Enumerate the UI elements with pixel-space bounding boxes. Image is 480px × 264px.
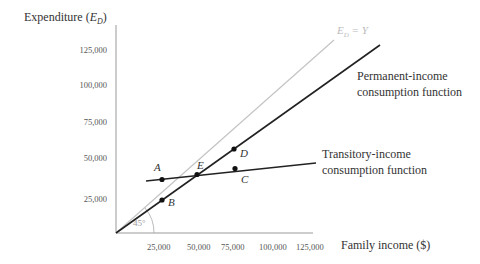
point-a bbox=[159, 177, 164, 182]
x-tick-50000: 50,000 bbox=[187, 242, 210, 252]
point-e-label: E bbox=[197, 159, 204, 171]
permanent-label-line2: consumption function bbox=[357, 84, 462, 100]
ed-equals-y-label: ED = Y bbox=[337, 24, 368, 39]
transitory-income-line bbox=[146, 163, 316, 181]
eq-main: E bbox=[337, 24, 344, 36]
point-c bbox=[232, 166, 237, 171]
point-c-label: C bbox=[241, 173, 248, 185]
diagram-canvas bbox=[0, 0, 480, 264]
point-d bbox=[231, 146, 236, 151]
transitory-label-line1: Transitory-income bbox=[322, 146, 427, 162]
ed-equals-y-line bbox=[116, 40, 334, 233]
permanent-label-line1: Permanent-income bbox=[357, 68, 462, 84]
x-tick-100000: 100,000 bbox=[259, 242, 287, 252]
eq-rest: = Y bbox=[349, 24, 368, 36]
y-tick-25000: 25,000 bbox=[47, 194, 107, 204]
point-e bbox=[194, 172, 199, 177]
y-axis-title-close: ) bbox=[103, 10, 107, 24]
point-b-label: B bbox=[168, 196, 175, 208]
point-b bbox=[159, 197, 164, 202]
x-tick-75000: 75,000 bbox=[221, 242, 244, 252]
y-axis-title-var: E bbox=[90, 10, 97, 24]
permanent-income-line bbox=[116, 45, 380, 233]
x-axis-title: Family income ($) bbox=[341, 238, 430, 253]
y-tick-125000: 125,000 bbox=[47, 45, 107, 55]
y-axis-title-text: Expenditure ( bbox=[24, 10, 90, 24]
transitory-income-label: Transitory-income consumption function bbox=[322, 146, 427, 178]
permanent-income-label: Permanent-income consumption function bbox=[357, 68, 462, 100]
transitory-label-line2: consumption function bbox=[322, 162, 427, 178]
x-tick-125000: 125,000 bbox=[296, 242, 324, 252]
y-tick-75000: 75,000 bbox=[47, 117, 107, 127]
angle-label: 45° bbox=[133, 218, 146, 228]
point-a-label: A bbox=[154, 161, 161, 173]
y-axis-title: Expenditure (ED) bbox=[24, 10, 107, 26]
point-d-label: D bbox=[240, 147, 248, 159]
y-tick-50000: 50,000 bbox=[47, 153, 107, 163]
x-tick-25000: 25,000 bbox=[147, 242, 170, 252]
y-tick-100000: 100,000 bbox=[47, 80, 107, 90]
